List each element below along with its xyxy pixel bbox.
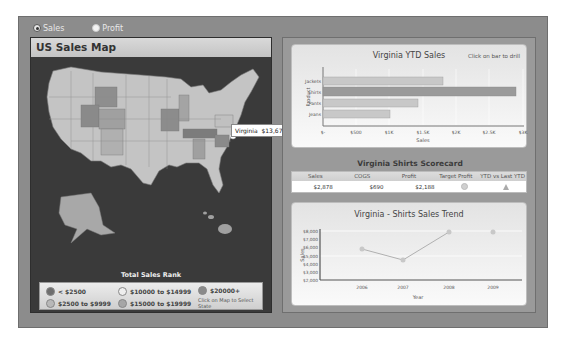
scorecard-row: $2,878 $690 $2,188 <box>292 181 526 193</box>
svg-text:$3K: $3K <box>519 130 528 135</box>
rank-legend-title: Total Sales Rank <box>31 271 271 279</box>
point-2009[interactable] <box>491 230 496 235</box>
svg-text:Jackets: Jackets <box>304 79 322 84</box>
scorecard-header-row: Sales COGS Profit Target Profit YTD vs L… <box>292 172 526 181</box>
legend-swatch-icon <box>46 287 55 296</box>
dashboard-frame: Sales Profit US Sales Map <box>18 16 548 328</box>
legend-label: < $2500 <box>58 288 86 295</box>
scorecard-title: Virginia Shirts Scorecard <box>287 159 533 168</box>
svg-text:$2,000: $2,000 <box>303 278 318 283</box>
svg-text:Product: Product <box>305 87 311 106</box>
map-hawaii <box>203 212 232 235</box>
legend-item-lt-2500: < $2500 <box>46 287 86 296</box>
svg-text:$1K: $1K <box>385 130 395 135</box>
col-target-profit: Target Profit <box>432 172 479 181</box>
svg-text:$3,000: $3,000 <box>303 270 318 275</box>
legend-item-20000-plus: $20000+ <box>198 286 240 295</box>
legend-label: $2500 to $9999 <box>58 300 111 307</box>
state-missouri <box>161 109 179 131</box>
svg-text:2007: 2007 <box>397 285 409 290</box>
measure-toggle: Sales Profit <box>33 21 123 35</box>
trend-line-plot: $8,000$7,000$6,000 $5,000$4,000$3,000$2,… <box>292 203 528 307</box>
cell-sales: $2,878 <box>292 183 343 192</box>
svg-text:$4,000: $4,000 <box>303 262 318 267</box>
cell-ytd-vs-last <box>485 183 526 192</box>
point-2006[interactable] <box>360 247 365 252</box>
svg-text:2006: 2006 <box>356 285 368 290</box>
state-new-mexico <box>101 129 123 155</box>
svg-text:Year: Year <box>412 294 425 300</box>
us-sales-map-panel: US Sales Map <box>30 37 272 313</box>
legend-item-10000-14999: $10000 to $14999 <box>118 287 191 296</box>
state-alabama <box>193 139 205 159</box>
svg-text:$8,000: $8,000 <box>303 229 318 234</box>
status-circle-icon <box>461 183 468 190</box>
svg-text:$7,000: $7,000 <box>303 237 318 242</box>
legend-swatch-icon <box>118 287 127 296</box>
col-sales: Sales <box>292 172 339 181</box>
svg-text:Sales: Sales <box>299 248 305 262</box>
svg-text:$2.5K: $2.5K <box>483 130 497 135</box>
legend-swatch-icon <box>198 286 207 295</box>
legend-swatch-icon <box>118 299 127 308</box>
svg-text:2009: 2009 <box>487 285 499 290</box>
bar-jackets[interactable] <box>323 77 443 85</box>
shirts-scorecard: Virginia Shirts Scorecard Sales COGS Pro… <box>287 156 533 196</box>
scorecard-table: Sales COGS Profit Target Profit YTD vs L… <box>291 171 527 193</box>
svg-text:$2K: $2K <box>452 130 462 135</box>
cell-profit: $2,188 <box>394 183 445 192</box>
svg-text:$500: $500 <box>350 130 362 135</box>
svg-text:$1.5K: $1.5K <box>417 130 431 135</box>
state-utah <box>81 105 99 127</box>
svg-text:$6,000: $6,000 <box>303 245 318 250</box>
svg-text:Sales: Sales <box>416 137 430 143</box>
point-2007[interactable] <box>401 258 406 263</box>
col-ytd-vs-last-ytd: YTD vs Last YTD <box>479 172 526 181</box>
state-tennessee <box>183 129 217 138</box>
radio-sales-dot[interactable] <box>33 24 41 32</box>
us-map-graphic[interactable] <box>31 57 271 262</box>
ytd-sales-chart: Virginia YTD Sales Click on bar to drill… <box>291 44 527 148</box>
map-contiguous-us <box>47 67 259 193</box>
svg-text:2008: 2008 <box>443 285 455 290</box>
map-alaska <box>59 193 115 243</box>
legend-label: $10000 to $14999 <box>130 288 191 295</box>
point-2008[interactable] <box>447 230 452 235</box>
bar-shirts[interactable] <box>323 87 516 96</box>
radio-profit-label: Profit <box>102 24 123 33</box>
legend-swatch-icon <box>46 299 55 308</box>
svg-text:$5,000: $5,000 <box>303 254 318 259</box>
svg-text:$-: $- <box>321 130 326 135</box>
cell-target-profit <box>444 183 485 192</box>
rank-legend: < $2500 $2500 to $9999 $10000 to $14999 … <box>39 282 263 310</box>
legend-label: $15000 to $19999 <box>130 300 191 307</box>
legend-label: $20000+ <box>210 287 240 294</box>
arrow-up-icon <box>503 184 509 190</box>
sales-trend-chart: Virginia - Shirts Sales Trend $8,000$7,0… <box>291 202 527 306</box>
radio-profit[interactable]: Profit <box>92 24 123 33</box>
svg-text:Jeans: Jeans <box>308 112 322 117</box>
radio-profit-dot[interactable] <box>92 24 100 32</box>
us-map[interactable]: Virginia $13,670 <box>31 57 271 262</box>
ytd-bar-plot: JacketsShirts PantsJeans $-$500$1K $1.5K… <box>292 45 528 149</box>
tooltip-state: Virginia <box>235 127 258 134</box>
map-panel-title: US Sales Map <box>31 38 271 57</box>
legend-item-2500-9999: $2500 to $9999 <box>46 299 111 308</box>
radio-sales[interactable]: Sales <box>33 24 64 33</box>
col-profit: Profit <box>386 172 433 181</box>
col-cogs: COGS <box>339 172 386 181</box>
detail-panel: Virginia YTD Sales Click on bar to drill… <box>282 37 536 313</box>
legend-item-15000-19999: $15000 to $19999 <box>118 299 191 308</box>
cell-cogs: $690 <box>343 183 394 192</box>
bar-jeans[interactable] <box>323 110 390 118</box>
map-hint: Click on Map to Select State <box>198 297 264 309</box>
state-illinois <box>179 95 189 121</box>
radio-sales-label: Sales <box>43 24 64 33</box>
bar-pants[interactable] <box>323 99 418 107</box>
